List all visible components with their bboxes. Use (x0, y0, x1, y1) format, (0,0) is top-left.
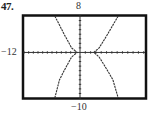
calculator-graph (0, 0, 148, 115)
curve-right-branch (94, 16, 118, 98)
graph-frame (23, 16, 146, 99)
axes (24, 16, 145, 98)
hyperbola-curves (55, 16, 118, 98)
curve-left-branch (55, 16, 77, 98)
